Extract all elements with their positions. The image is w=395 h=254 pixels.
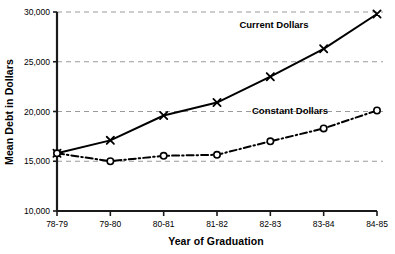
x-tick-label: 84-85: [366, 219, 388, 229]
line-chart: 10,00015,00020,00025,00030,000 78-7979-8…: [0, 0, 395, 254]
x-tick-label: 80-81: [153, 219, 175, 229]
y-tick-label: 25,000: [24, 57, 50, 67]
chart-background: [0, 0, 395, 254]
y-tick-label: 15,000: [24, 156, 50, 166]
y-tick-label: 20,000: [24, 107, 50, 117]
x-tick-label: 78-79: [46, 219, 68, 229]
x-tick-label: 81-82: [206, 219, 228, 229]
data-point-marker: [107, 158, 113, 164]
data-point-marker: [54, 150, 60, 156]
x-tick-label: 82-83: [259, 219, 281, 229]
series-label-current-dollars: Current Dollars: [239, 19, 308, 30]
series-label-constant-dollars: Constant Dollars: [252, 105, 328, 116]
y-axis-title: Mean Debt in Dollars: [3, 59, 15, 165]
y-tick-label: 30,000: [24, 7, 50, 17]
y-tick-label: 10,000: [24, 206, 50, 216]
data-point-marker: [214, 152, 220, 158]
data-point-marker: [267, 138, 273, 144]
data-point-marker: [374, 107, 380, 113]
x-axis-title: Year of Graduation: [168, 235, 264, 247]
data-point-marker: [160, 153, 166, 159]
x-tick-label: 79-80: [99, 219, 121, 229]
data-point-marker: [320, 125, 326, 131]
x-tick-label: 83-84: [313, 219, 335, 229]
chart-container: 10,00015,00020,00025,00030,000 78-7979-8…: [0, 0, 395, 254]
